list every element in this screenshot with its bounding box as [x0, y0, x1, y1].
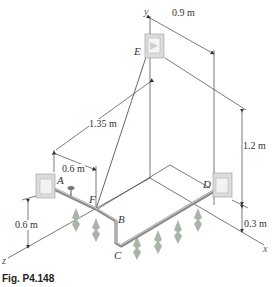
plant-icon [194, 208, 202, 232]
x-axis-label: x [263, 244, 267, 254]
figure-caption: Fig. P4.148 [2, 273, 54, 284]
plant-icon [72, 208, 80, 232]
dim-a-height-0-6m: 0.6 m [15, 220, 38, 230]
cables [96, 57, 146, 209]
cable-ef [96, 57, 146, 209]
plant-icon [174, 220, 182, 244]
plant-icon [154, 230, 162, 254]
bracket-a [36, 174, 55, 198]
y-axis-label: y [144, 7, 148, 17]
point-f-label: F [89, 194, 96, 205]
point-a-label: A [57, 175, 64, 186]
bracket-e [145, 34, 164, 58]
z-axis-label: z [2, 256, 6, 266]
point-c-label: C [114, 250, 121, 261]
point-e-label: E [134, 46, 141, 57]
dim-0-3m: 0.3 m [244, 219, 267, 229]
dim-0-9m: 0.9 m [172, 8, 195, 18]
bracket-d [213, 173, 232, 197]
dim-1-2m: 1.2 m [243, 141, 266, 151]
point-b-label: B [118, 214, 125, 225]
point-d-label: D [203, 179, 211, 190]
plants [72, 208, 202, 260]
dim-1-35m: 1.35 m [89, 119, 117, 129]
plant-icon [92, 218, 100, 242]
dim-af-0-6m: 0.6 m [62, 164, 85, 174]
